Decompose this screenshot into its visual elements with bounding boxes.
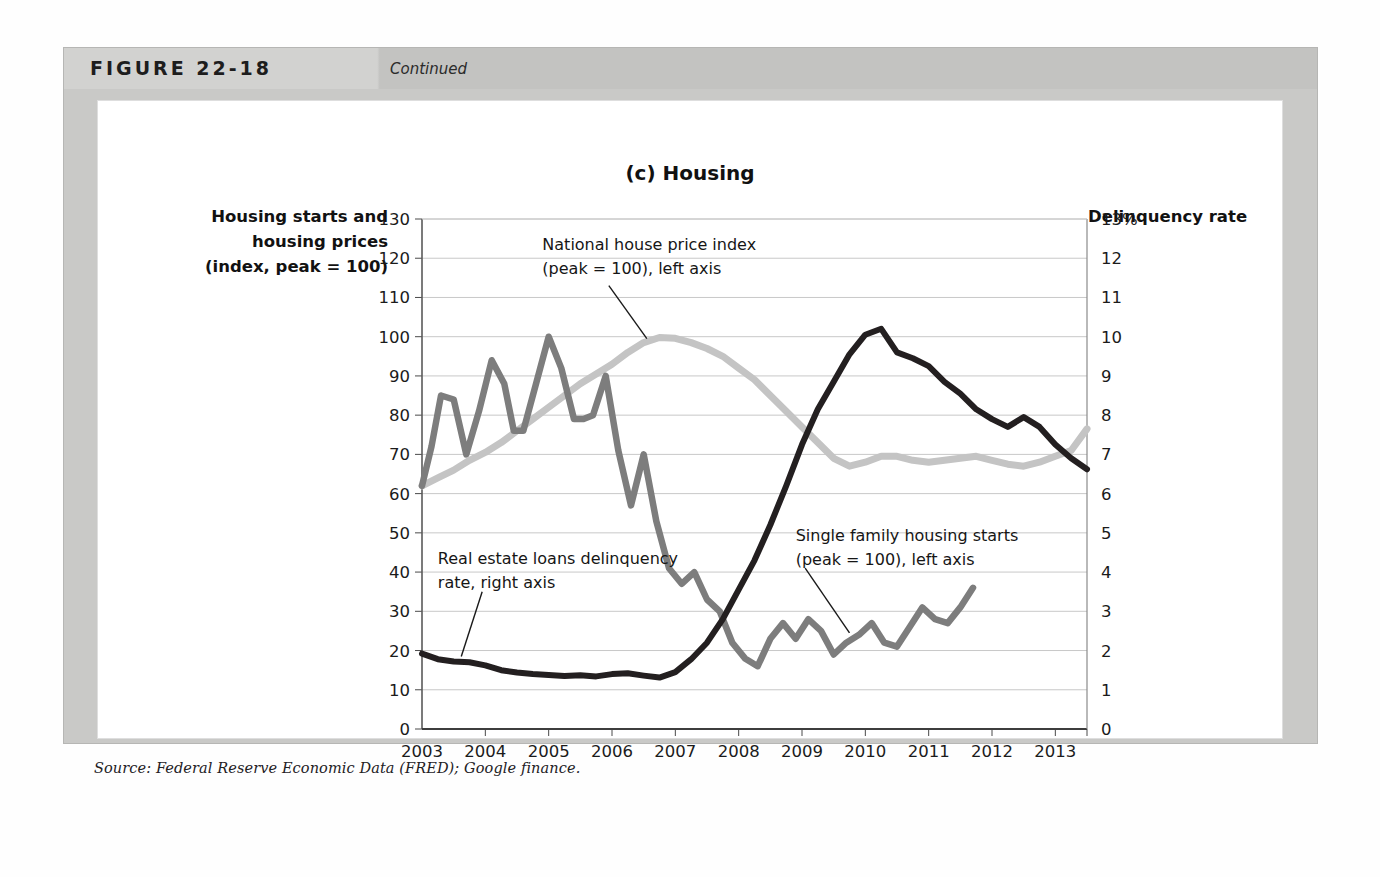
annotation-text: (peak = 100), left axis	[796, 550, 975, 569]
figure-header: FIGURE 22-18 Continued	[64, 48, 1317, 89]
y-tick-left: 130	[379, 210, 411, 229]
y-tick-left: 110	[379, 288, 411, 307]
y-tick-right: 7	[1101, 445, 1112, 464]
x-tick: 2004	[464, 742, 506, 761]
y-tick-left: 100	[379, 328, 411, 347]
x-tick: 2012	[971, 742, 1013, 761]
data-series	[422, 329, 1087, 678]
y-tick-left: 40	[389, 563, 410, 582]
annotation-text: rate, right axis	[438, 573, 555, 592]
annotations: National house price index(peak = 100), …	[438, 235, 1018, 656]
series-line	[422, 338, 1087, 486]
y-tick-right: 11	[1101, 288, 1122, 307]
y-tick-left: 30	[389, 602, 410, 621]
x-tick: 2010	[844, 742, 886, 761]
y-tick-left: 10	[389, 681, 410, 700]
y-tick-right: 2	[1101, 642, 1112, 661]
series-line	[422, 337, 973, 667]
plot-frame	[422, 219, 1087, 729]
y-tick-right: 1	[1101, 681, 1112, 700]
annotation-text: Single family housing starts	[796, 526, 1019, 545]
annotation-text: Real estate loans delinquency	[438, 549, 678, 568]
y-tick-right: 9	[1101, 367, 1112, 386]
y-tick-left: 0	[400, 720, 411, 739]
y-tick-right: 10	[1101, 328, 1122, 347]
annotation-text: (peak = 100), left axis	[542, 259, 721, 278]
figure-continued-label: Continued	[390, 60, 467, 78]
x-tick: 2006	[591, 742, 633, 761]
y-tick-right: 13%	[1101, 210, 1138, 229]
y-tick-right: 4	[1101, 563, 1112, 582]
page-root: FIGURE 22-18 Continued (c) Housing Housi…	[0, 0, 1380, 877]
y-tick-right: 0	[1101, 720, 1112, 739]
figure-number: FIGURE 22-18	[90, 57, 272, 79]
y-tick-left: 90	[389, 367, 410, 386]
figure-box: FIGURE 22-18 Continued (c) Housing Housi…	[63, 47, 1318, 744]
y-tick-right: 8	[1101, 406, 1112, 425]
y-tick-right: 5	[1101, 524, 1112, 543]
source-note: Source: Federal Reserve Economic Data (F…	[94, 760, 580, 776]
x-tick: 2009	[781, 742, 823, 761]
x-tick: 2003	[401, 742, 443, 761]
y-tick-left: 80	[389, 406, 410, 425]
x-axis-ticks: 2003200420052006200720082009201020112012…	[401, 729, 1087, 761]
chart-card: (c) Housing Housing starts and housing p…	[97, 100, 1283, 739]
chart-plot: 0102030405060708090100110120130 01234567…	[98, 101, 1284, 740]
x-tick: 2011	[908, 742, 950, 761]
grid-lines	[422, 219, 1087, 690]
annotation-text: National house price index	[542, 235, 756, 254]
y-axis-ticks-right: 012345678910111213%	[1101, 210, 1138, 739]
y-tick-left: 60	[389, 485, 410, 504]
x-tick: 2005	[528, 742, 570, 761]
x-tick: 2008	[718, 742, 760, 761]
y-axis-ticks-left: 0102030405060708090100110120130	[379, 210, 423, 739]
annotation-leader-line	[461, 592, 482, 657]
y-tick-right: 12	[1101, 249, 1122, 268]
annotation-leader-line	[609, 286, 647, 339]
x-tick: 2013	[1034, 742, 1076, 761]
y-tick-left: 50	[389, 524, 410, 543]
y-tick-left: 70	[389, 445, 410, 464]
y-tick-left: 120	[379, 249, 411, 268]
y-tick-left: 20	[389, 642, 410, 661]
y-tick-right: 3	[1101, 602, 1112, 621]
x-tick: 2007	[654, 742, 696, 761]
y-tick-right: 6	[1101, 485, 1112, 504]
